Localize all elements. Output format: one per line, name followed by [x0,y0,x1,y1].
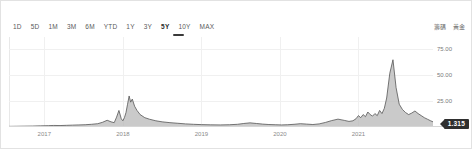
area-series-svg [9,37,433,127]
range-selector[interactable]: 1D5D1M3M6MYTD1Y3Y5Y10YMAX [13,19,223,35]
y-axis-labels: 25.0050.0075.00 [437,37,471,127]
chart-widget: 1D5D1M3M6MYTD1Y3Y5Y10YMAX 籌碼黃金 25.0050.0… [0,0,472,149]
range-option-5y[interactable]: 5Y [161,19,174,35]
top-label-0[interactable]: 籌碼 [434,19,446,35]
current-price-badge: 1.315 [440,119,469,129]
range-option-ytd[interactable]: YTD [104,19,123,35]
x-axis-labels: 20172018201920202021 [9,129,433,141]
range-option-3y[interactable]: 3Y [144,19,157,35]
series-canvas [9,37,433,127]
x-tick-label-1: 2018 [116,129,129,139]
x-axis-line [9,126,465,127]
range-option-3m[interactable]: 3M [67,19,81,35]
range-option-6m[interactable]: 6M [85,19,99,35]
area-fill [9,60,433,127]
range-option-5d[interactable]: 5D [31,19,45,35]
range-option-1y[interactable]: 1Y [126,19,139,35]
range-option-10y[interactable]: 10Y [178,19,195,35]
y-tick-label-0: 25.00 [437,98,452,105]
top-label-1[interactable]: 黃金 [453,19,465,35]
range-option-max[interactable]: MAX [200,19,220,35]
y-tick-label-2: 75.00 [437,46,452,53]
x-tick-label-2: 2019 [195,129,208,139]
range-option-1d[interactable]: 1D [13,19,27,35]
y-tick-label-1: 50.00 [437,72,452,79]
range-option-1m[interactable]: 1M [48,19,62,35]
selected-range-indicator [173,34,184,36]
plot-area[interactable] [9,37,433,127]
x-tick-label-3: 2020 [273,129,286,139]
x-tick-label-4: 2021 [352,129,365,139]
current-price-value: 1.315 [444,119,469,129]
x-tick-label-0: 2017 [38,129,51,139]
chart-toolbar: 1D5D1M3M6MYTD1Y3Y5Y10YMAX 籌碼黃金 [1,19,472,35]
top-label-group: 籌碼黃金 [434,19,465,35]
